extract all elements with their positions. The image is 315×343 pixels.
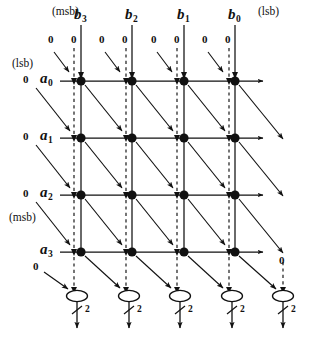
row-zero-input-a2: 0 xyxy=(23,188,29,199)
top-zero-input-2: 0 xyxy=(71,34,77,45)
solid-column-arrowheads xyxy=(78,72,238,79)
adder-output-buses xyxy=(77,302,283,328)
operand-label-a2: a2 xyxy=(40,185,53,202)
row-lines xyxy=(60,81,263,252)
top-lsb-marker: (lsb) xyxy=(258,6,279,18)
bus-width-label-3: 2 xyxy=(188,305,193,315)
diagonal-arrows-top-inputs xyxy=(54,52,223,72)
grid-nodes xyxy=(76,76,239,256)
adder-ovals xyxy=(67,290,294,301)
operand-label-b0: b0 xyxy=(228,7,241,24)
row-zero-input-a0: 0 xyxy=(23,74,29,85)
row-zero-input-a1: 0 xyxy=(23,131,29,142)
top-zero-input-4: 0 xyxy=(122,34,128,45)
operand-label-b3: b3 xyxy=(74,7,87,24)
top-zero-input-3: 0 xyxy=(99,34,105,45)
operand-label-a3: a3 xyxy=(40,242,53,259)
top-zero-input-8: 0 xyxy=(225,34,231,45)
left-msb-marker: (msb) xyxy=(9,212,36,224)
bottom-right-zero-input: 0 xyxy=(279,255,285,266)
top-zero-input-1: 0 xyxy=(48,34,54,45)
bottom-left-zero-input: 0 xyxy=(33,261,39,272)
diagram-canvas xyxy=(0,0,315,343)
operand-label-b1: b1 xyxy=(177,7,190,24)
multiplier-array-diagram: (msb) (lsb) b3 b2 b1 b0 0 0 0 0 0 0 0 0 … xyxy=(0,0,315,343)
bus-width-label-2: 2 xyxy=(137,305,142,315)
bus-width-label-1: 2 xyxy=(85,305,90,315)
operand-label-b2: b2 xyxy=(125,7,138,24)
bus-width-label-5: 2 xyxy=(291,305,296,315)
top-zero-input-6: 0 xyxy=(174,34,180,45)
operand-label-a1: a1 xyxy=(40,128,53,145)
top-zero-input-7: 0 xyxy=(202,34,208,45)
left-lsb-marker: (lsb) xyxy=(12,58,33,70)
operand-label-a0: a0 xyxy=(40,71,53,88)
top-zero-input-5: 0 xyxy=(151,34,157,45)
bus-width-label-4: 2 xyxy=(240,305,245,315)
dashed-line-arrowheads xyxy=(71,78,286,293)
